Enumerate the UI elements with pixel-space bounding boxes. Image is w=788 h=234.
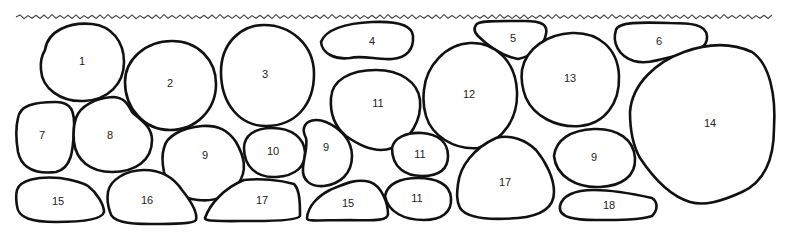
- stone-label: 4: [369, 35, 375, 47]
- stone-label: 3: [262, 68, 268, 80]
- stone-label: 15: [342, 197, 354, 209]
- stone-label: 6: [656, 35, 662, 47]
- stone-label: 14: [704, 117, 716, 129]
- stone-label: 15: [52, 195, 64, 207]
- stone-11c: 11: [385, 178, 451, 220]
- stone-18: 18: [560, 190, 657, 220]
- stone-label: 5: [510, 32, 516, 44]
- stone-3: 3: [221, 25, 314, 126]
- stone-15a: 15: [16, 178, 104, 223]
- stone-label: 13: [564, 72, 576, 84]
- stone-outline: [17, 102, 75, 172]
- stone-diagram: 1234567891091111111213141515161717918: [0, 0, 788, 234]
- stone-11b: 11: [392, 133, 448, 176]
- stone-10: 10: [244, 128, 305, 177]
- stone-label: 8: [107, 129, 113, 141]
- stone-label: 17: [256, 194, 268, 206]
- stone-label: 1: [79, 55, 85, 67]
- stone-outline: [630, 45, 774, 203]
- stone-label: 17: [499, 176, 511, 188]
- stone-outline: [321, 22, 413, 59]
- stone-9c: 9: [554, 129, 635, 187]
- stones-group: 1234567891091111111213141515161717918: [16, 21, 774, 224]
- stone-4: 4: [321, 22, 413, 59]
- stone-12: 12: [423, 43, 517, 148]
- stone-label: 9: [202, 149, 208, 161]
- ground-line: [16, 15, 772, 19]
- stone-label: 16: [141, 194, 153, 206]
- stone-label: 12: [463, 88, 475, 100]
- stone-label: 2: [167, 77, 173, 89]
- stone-label: 9: [591, 151, 597, 163]
- stone-label: 11: [372, 97, 383, 109]
- stone-label: 11: [414, 148, 425, 160]
- stone-1: 1: [41, 24, 124, 101]
- stone-14: 14: [630, 45, 774, 203]
- stone-label: 9: [323, 141, 329, 153]
- stone-label: 7: [39, 129, 45, 141]
- stone-7: 7: [17, 102, 75, 172]
- stone-13: 13: [522, 33, 619, 126]
- stone-label: 18: [603, 199, 615, 211]
- stone-label: 11: [411, 192, 422, 204]
- stone-label: 10: [267, 145, 279, 157]
